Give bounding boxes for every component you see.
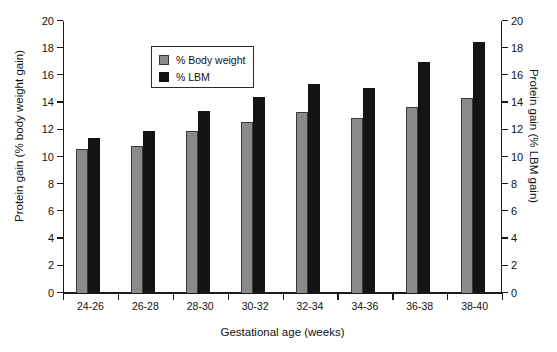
y-axis-left-tick [57,265,63,266]
y-axis-right-tick-label: 10 [511,152,523,163]
bar-body-weight [296,112,308,293]
x-axis-tick [337,293,338,300]
y-axis-left-tick [57,183,63,184]
bar-body-weight [461,98,473,293]
x-axis-tick-label: 24-26 [77,301,104,312]
y-axis-right-title: Protein gain (% LBM gain) [528,69,540,203]
y-axis-left-tick-label: 18 [42,43,54,54]
x-axis-tick [502,293,503,300]
y-axis-left-tick [57,20,63,21]
y-axis-right-tick-label: 14 [511,97,523,108]
bar-lbm [198,111,210,293]
x-axis-tick [118,293,119,300]
y-axis-right-tick [502,129,508,130]
x-axis-tick-label: 30-32 [242,301,269,312]
bar-lbm [308,84,320,293]
x-axis-tick-label: 34-36 [351,301,378,312]
y-axis-left-tick-label: 14 [42,97,54,108]
legend-label-body-weight: % Body weight [176,55,245,66]
chart-legend: % Body weight % LBM [151,46,254,88]
x-axis-tick [392,293,393,300]
y-axis-right-tick [502,74,508,75]
y-axis-left-tick-label: 10 [42,152,54,163]
y-axis-left-tick-label: 20 [42,16,54,27]
y-axis-right-tick [502,47,508,48]
y-axis-left-tick [57,156,63,157]
x-axis-tick-label: 32-34 [297,301,324,312]
y-axis-right-tick [502,265,508,266]
legend-swatch-lbm [159,72,169,82]
bar-chart-figure: Protein gain (% body weight gain) Protei… [0,0,557,352]
x-axis-tick [63,293,64,300]
x-axis-tick-label: 36-38 [406,301,433,312]
y-axis-right-tick-label: 4 [511,233,517,244]
y-axis-left-tick [57,210,63,211]
y-axis-right-tick-label: 20 [511,16,523,27]
bar-lbm [363,88,375,293]
x-axis-tick [228,293,229,300]
x-axis-tick [447,293,448,300]
y-axis-left-tick [57,101,63,102]
x-axis-tick-label: 38-40 [461,301,488,312]
bar-lbm [143,131,155,293]
bar-body-weight [186,131,198,293]
y-axis-right-tick [502,237,508,238]
legend-item-lbm: % LBM [159,69,253,85]
y-axis-left-tick-label: 2 [48,260,54,271]
x-axis-title: Gestational age (weeks) [63,326,502,338]
y-axis-right-tick [502,183,508,184]
y-axis-left-tick-label: 4 [48,233,54,244]
y-axis-right-line [501,21,502,293]
legend-swatch-body-weight [159,55,169,65]
y-axis-right-tick-label: 8 [511,179,517,190]
bar-body-weight [241,122,253,293]
y-axis-left-tick-label: 6 [48,206,54,217]
y-axis-right-tick-label: 18 [511,43,523,54]
bar-body-weight [76,149,88,293]
y-axis-left-tick-label: 16 [42,70,54,81]
y-axis-left-line [63,21,64,293]
y-axis-right-tick-label: 16 [511,70,523,81]
y-axis-right-tick [502,20,508,21]
bar-body-weight [351,118,363,293]
bar-body-weight [406,107,418,293]
y-axis-right-tick [502,101,508,102]
y-axis-left-title-container: Protein gain (% body weight gain) [12,0,26,272]
bar-lbm [253,97,265,293]
y-axis-right-tick [502,156,508,157]
y-axis-right-tick-label: 2 [511,260,517,271]
y-axis-left-tick-label: 12 [42,124,54,135]
y-axis-left-tick [57,129,63,130]
bar-lbm [88,138,100,293]
y-axis-left-tick [57,47,63,48]
y-axis-left-tick-label: 8 [48,179,54,190]
plot-area: 02468101214161820 02468101214161820 24-2… [63,21,502,293]
y-axis-right-tick-label: 6 [511,206,517,217]
bar-lbm [473,42,485,293]
x-axis-tick-label: 28-30 [187,301,214,312]
y-axis-left-title: Protein gain (% body weight gain) [13,50,25,222]
y-axis-right-title-container: Protein gain (% LBM gain) [527,0,541,272]
y-axis-right-tick-label: 0 [511,288,517,299]
bar-body-weight [131,146,143,293]
y-axis-left-tick [57,74,63,75]
bar-lbm [418,62,430,293]
legend-label-lbm: % LBM [176,72,210,83]
y-axis-left-tick-label: 0 [48,288,54,299]
x-axis-tick [283,293,284,300]
x-axis-tick [173,293,174,300]
y-axis-right-tick-label: 12 [511,124,523,135]
legend-item-body-weight: % Body weight [159,52,253,68]
y-axis-left-tick [57,237,63,238]
x-axis-tick-label: 26-28 [132,301,159,312]
y-axis-right-tick [502,210,508,211]
